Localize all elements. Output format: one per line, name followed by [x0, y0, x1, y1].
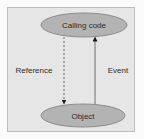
- node-label-calling-code: Calling code: [62, 21, 107, 30]
- node-label-object: Object: [71, 112, 95, 121]
- diagram-canvas: Calling code Object Reference Event: [0, 0, 144, 139]
- edge-label-reference: Reference: [16, 66, 53, 75]
- node-object: Object: [41, 104, 125, 127]
- node-calling-code: Calling code: [41, 13, 127, 37]
- edge-label-event: Event: [108, 66, 129, 75]
- diagram-svg: Calling code Object Reference Event: [0, 0, 144, 139]
